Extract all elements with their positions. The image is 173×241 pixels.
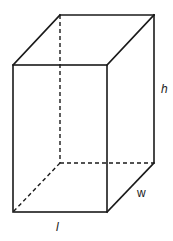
visible-edges	[13, 15, 154, 212]
width-label: w	[136, 186, 146, 200]
length-label: l	[56, 220, 59, 234]
rectangular-prism-diagram: h w l	[0, 0, 173, 241]
edge-top-left-depth	[13, 15, 60, 65]
edge-top-right-depth	[107, 15, 154, 65]
hidden-edge-bottom-depth	[13, 163, 60, 212]
edge-bottom-right-depth	[107, 163, 154, 212]
hidden-edges	[13, 15, 154, 212]
height-label: h	[161, 82, 168, 96]
